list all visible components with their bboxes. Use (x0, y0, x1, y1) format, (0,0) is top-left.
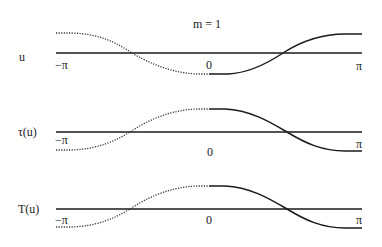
figure-canvas (0, 0, 382, 247)
panel-tau-tick-center: 0 (207, 146, 213, 158)
curve-u-solid (209, 34, 362, 74)
panel-u-label: u (19, 51, 25, 63)
curve-T-solid (209, 186, 362, 228)
panel-tau-tick-right: π (356, 138, 362, 150)
panel-tau-tick-left: −π (55, 134, 68, 146)
panel-T-tick-right: π (356, 214, 362, 226)
figure-title: m = 1 (193, 18, 221, 30)
panel-T-label: T(u) (18, 203, 39, 215)
panel-u-tick-left: −π (55, 59, 68, 71)
curve-T-dotted (56, 186, 209, 227)
panel-T-tick-center: 0 (206, 214, 212, 226)
panel-tau-label: τ(u) (18, 126, 37, 138)
curve-tau-dotted (56, 109, 209, 150)
panel-u-tick-right: π (356, 60, 362, 72)
curve-tau-solid (209, 109, 362, 151)
panel-u-tick-center: 0 (206, 59, 212, 71)
panel-T-tick-left: −π (55, 214, 68, 226)
